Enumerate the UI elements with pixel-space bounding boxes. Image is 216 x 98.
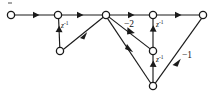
edges-group	[15, 12, 202, 84]
edge-input-to-n1	[15, 12, 55, 19]
node-top-2[interactable]	[54, 11, 61, 18]
node-top-4[interactable]	[149, 11, 156, 18]
node-mid-right[interactable]	[149, 47, 156, 54]
arrowhead	[175, 12, 182, 19]
arrowhead	[128, 12, 135, 19]
figure-canvas: z-1 −2 z-1 z-1 −1	[0, 0, 216, 98]
edge-n5-to-n2	[63, 17, 103, 49]
arrowhead	[77, 12, 84, 19]
delay-exponent: -1	[64, 20, 69, 26]
output-node[interactable]	[199, 11, 206, 18]
nodes-group	[7, 11, 206, 89]
edge-label-delay-lower: z-1	[156, 56, 163, 64]
edge-label-gain-minus2: −2	[124, 20, 134, 30]
arrowhead	[33, 12, 40, 19]
delay-exponent: -1	[159, 19, 164, 25]
arrowhead	[173, 59, 181, 67]
edge-label-gain-minus1: −1	[182, 51, 192, 61]
edge-n3-to-n4	[157, 12, 200, 19]
node-top-3[interactable]	[102, 11, 109, 18]
node-bottom[interactable]	[149, 82, 156, 89]
signal-flow-graph-svg	[0, 0, 216, 98]
delay-exponent: -1	[159, 54, 164, 60]
node-lower-left[interactable]	[56, 47, 63, 54]
edge-n1-to-n2	[62, 12, 103, 19]
edge-label-delay-left: z-1	[61, 22, 68, 30]
edge-n2-to-n3	[110, 12, 150, 19]
input-node[interactable]	[7, 11, 14, 18]
edge-label-delay-mid: z-1	[156, 21, 163, 29]
